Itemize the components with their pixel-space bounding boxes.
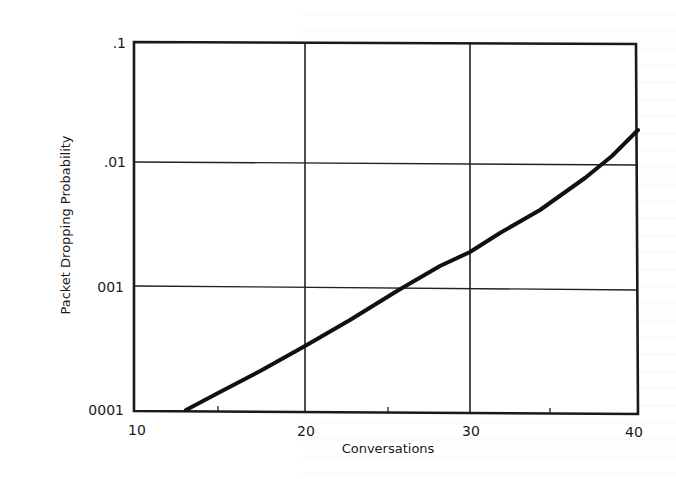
y-tick-label-0.01: .01 <box>104 154 126 170</box>
y-tick-label-0.1: .1 <box>113 35 126 51</box>
x-axis-title: Conversations <box>342 441 435 456</box>
y-tick-label-0.0001: 0001 <box>88 402 124 418</box>
x-tick-label-40: 40 <box>625 424 643 440</box>
y-tick-label-0.001: 001 <box>97 279 124 295</box>
x-tick-label-20: 20 <box>297 423 315 439</box>
x-tick-label-30: 30 <box>462 423 480 439</box>
y-axis-title: Packet Dropping Probability <box>58 135 73 314</box>
x-tick-label-10: 10 <box>128 422 146 438</box>
chart: .1 .01 001 0001 10 20 30 40 Conversation… <box>0 0 676 479</box>
plot-area <box>134 42 638 414</box>
